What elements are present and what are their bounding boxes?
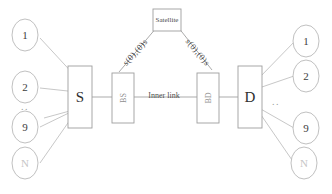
node-label: N [300,157,308,169]
hub-label: D [245,89,256,105]
node-label: 1 [22,29,28,41]
source-node-2[interactable]: 2 [12,71,38,103]
node-label: 2 [303,70,309,82]
left-relay-box[interactable]: BS [112,73,134,123]
destination-hub-box[interactable]: D [238,66,262,128]
edge-dest-1 [259,40,296,78]
satellite-label: Satellite [156,16,179,24]
source-hub-box[interactable]: S [68,66,92,128]
node-label: 9 [22,121,28,133]
destination-ellipsis: .. [272,96,280,107]
source-ellipsis: .. [21,101,29,112]
downlink-label: s(0),(0)s [184,36,212,67]
node-label: N [21,157,29,169]
edge-dest-2 [259,76,294,88]
source-nodes-group: 1 2 .. 9 N [12,19,38,179]
inner-link-label: Inner link [148,91,179,100]
source-node-n[interactable]: N [12,147,38,179]
destination-node-2[interactable]: 2 [293,60,319,92]
satellite-box[interactable]: Satellite [153,9,181,31]
edge-dest-n [259,112,292,160]
destination-node-1[interactable]: 1 [293,25,319,57]
node-label: 2 [22,81,28,93]
right-relay-box[interactable]: BD [197,73,219,123]
node-label: 9 [303,122,309,134]
source-node-1[interactable]: 1 [12,19,38,51]
node-label: 1 [303,35,309,47]
edge-dest-9 [259,108,294,128]
destination-node-n[interactable]: N [291,147,317,179]
destination-node-9[interactable]: 9 [293,112,319,144]
diagram-canvas: 1 2 .. 9 N 1 2 [0,0,332,194]
hub-label: S [76,89,84,105]
source-node-9[interactable]: 9 [12,111,38,143]
destination-nodes-group: 1 2 .. 9 N [272,25,319,179]
uplink-label: s(0),(0)s [121,37,150,68]
relay-label: BD [204,92,213,103]
relay-label: BS [119,93,128,103]
